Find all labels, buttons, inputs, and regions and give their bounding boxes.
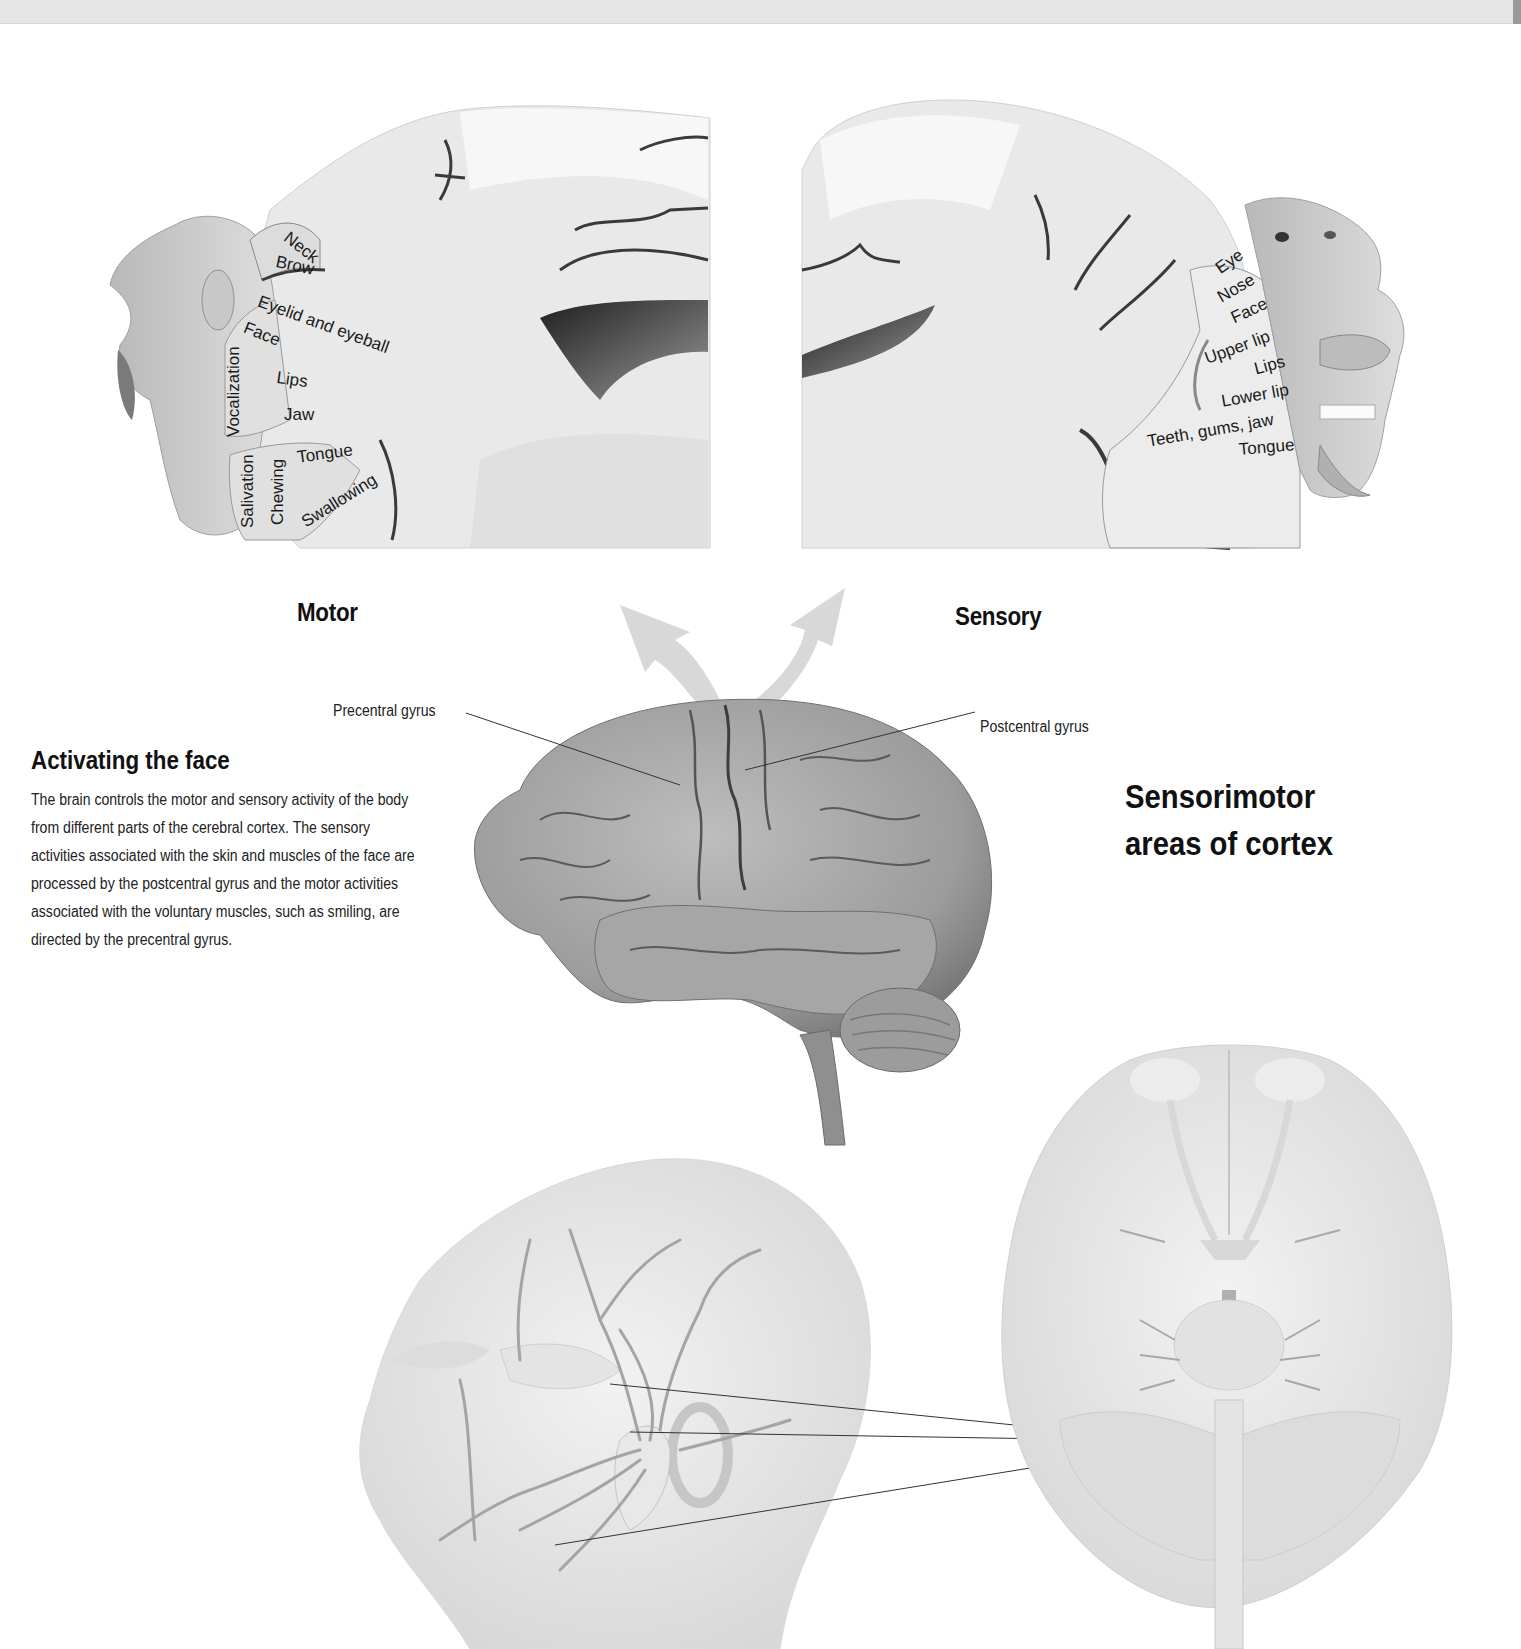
- brain-underside-illustration: [0, 0, 1521, 1649]
